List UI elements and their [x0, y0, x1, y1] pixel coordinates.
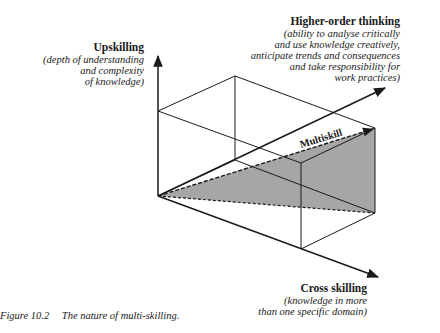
- cross-skilling-label: Cross skilling (knowledge in more than o…: [187, 281, 367, 317]
- upskilling-desc-line: and complexity: [4, 65, 144, 76]
- higher-order-desc-line: work practices): [180, 72, 400, 83]
- upskilling-desc-line: (depth of understanding: [4, 54, 144, 65]
- higher-order-label: Higher-order thinking (ability to analys…: [180, 14, 400, 83]
- higher-order-desc-line: and use knowledge creatively,: [180, 39, 400, 50]
- cross-skilling-desc-line: (knowledge in more: [187, 295, 367, 306]
- figure-caption: Figure 10.2 The nature of multi-skilling…: [0, 310, 179, 321]
- higher-order-desc-line: and take responsibility for: [180, 61, 400, 72]
- upskilling-label: Upskilling (depth of understanding and c…: [4, 40, 144, 87]
- figure-number: Figure 10.2: [0, 310, 49, 321]
- figure-caption-text: The nature of multi-skilling.: [62, 310, 179, 321]
- cross-skilling-title: Cross skilling: [187, 281, 367, 295]
- higher-order-title: Higher-order thinking: [180, 14, 400, 28]
- upskilling-title: Upskilling: [4, 40, 144, 54]
- cross-skilling-desc-line: than one specific domain): [187, 306, 367, 317]
- higher-order-desc-line: anticipate trends and consequences: [180, 50, 400, 61]
- upskilling-desc-line: of knowledge): [4, 76, 144, 87]
- higher-order-desc-line: (ability to analyse critically: [180, 28, 400, 39]
